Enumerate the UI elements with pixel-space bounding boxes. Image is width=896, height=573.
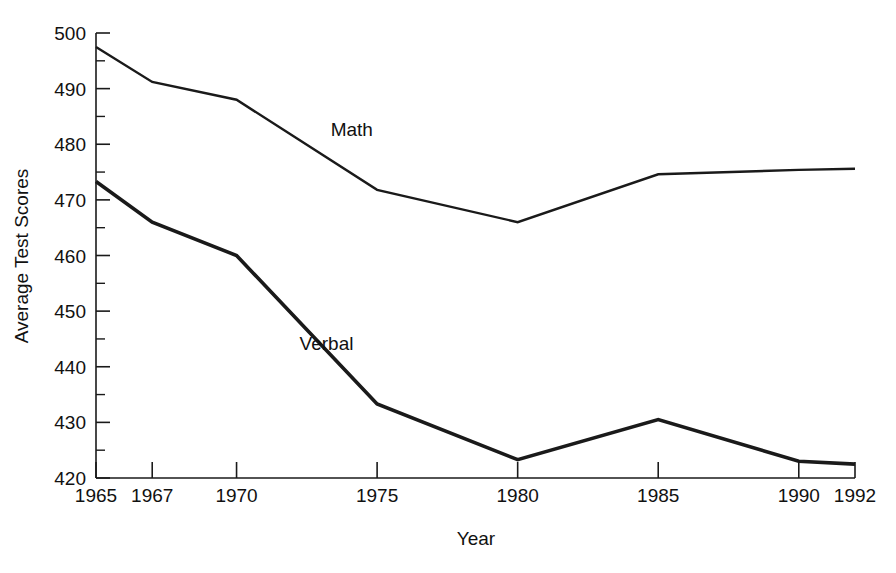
y-axis-title: Average Test Scores xyxy=(11,169,32,344)
y-axis-group: 420430440450460470480490500 xyxy=(54,23,110,489)
x-tick-label: 1970 xyxy=(215,485,257,506)
x-axis-tick-labels: 19651967197019751980198519901992 xyxy=(75,485,876,506)
series-annotations: Math Verbal xyxy=(300,119,373,354)
x-tick-label: 1967 xyxy=(131,485,173,506)
series-line-verbal xyxy=(96,182,855,465)
y-tick-label: 460 xyxy=(54,246,86,267)
y-tick-label: 480 xyxy=(54,134,86,155)
y-tick-label: 490 xyxy=(54,79,86,100)
series-label-math: Math xyxy=(331,119,373,140)
x-axis-ticks xyxy=(96,462,855,478)
y-tick-label: 450 xyxy=(54,301,86,322)
x-tick-label: 1992 xyxy=(834,485,876,506)
series-label-verbal: Verbal xyxy=(300,333,354,354)
x-axis-group: 19651967197019751980198519901992 xyxy=(75,462,876,506)
y-axis-major-ticks xyxy=(96,33,110,478)
x-tick-label: 1980 xyxy=(497,485,539,506)
x-tick-label: 1990 xyxy=(778,485,820,506)
y-tick-label: 500 xyxy=(54,23,86,44)
x-tick-label: 1975 xyxy=(356,485,398,506)
x-axis-title: Year xyxy=(457,528,496,549)
y-tick-label: 470 xyxy=(54,190,86,211)
x-tick-label: 1985 xyxy=(637,485,679,506)
x-tick-label: 1965 xyxy=(75,485,117,506)
series-line-math xyxy=(96,47,855,222)
chart-figure: 420430440450460470480490500 196519671970… xyxy=(0,0,896,573)
line-chart-svg: 420430440450460470480490500 196519671970… xyxy=(0,0,896,573)
y-tick-label: 440 xyxy=(54,357,86,378)
series-group xyxy=(96,47,855,464)
y-axis-tick-labels: 420430440450460470480490500 xyxy=(54,23,86,489)
y-tick-label: 430 xyxy=(54,412,86,433)
